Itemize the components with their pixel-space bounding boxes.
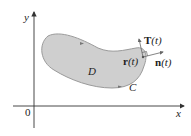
tangent-label: T(t) (144, 35, 162, 46)
tangent-label-arg: (t) (151, 34, 161, 46)
normal-label: n(t) (155, 57, 172, 68)
curve-label: C (129, 82, 136, 93)
point-label-arg: (t) (128, 55, 138, 67)
point-r (142, 56, 144, 58)
region-label: D (88, 66, 96, 77)
point-label: r(t) (123, 56, 138, 67)
y-axis-label: y (24, 12, 29, 23)
x-axis-label: x (176, 108, 181, 119)
origin-label: 0 (25, 107, 31, 118)
normal-label-arg: (t) (161, 56, 171, 68)
